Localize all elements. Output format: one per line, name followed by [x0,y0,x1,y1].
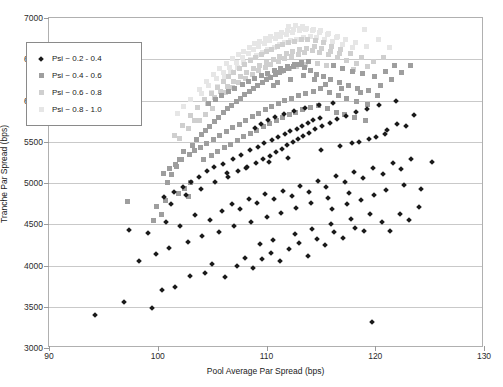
data-point [297,62,302,67]
data-point [238,74,243,79]
data-point [210,106,215,111]
data-point [180,123,185,128]
gridline [49,142,482,143]
data-point [319,123,325,129]
data-point [188,113,193,118]
data-point [373,134,379,140]
data-point [204,169,210,175]
data-point [241,49,246,54]
data-point [290,30,295,35]
data-point [291,64,296,69]
data-point [177,136,182,141]
data-point [329,206,335,212]
data-point [221,70,226,75]
legend-item[interactable]: Psi ~ 0.6 - 0.8 [35,84,135,101]
data-point [273,71,278,76]
data-point [263,191,269,197]
data-point [286,24,291,29]
data-point [237,66,242,71]
data-point [387,45,392,50]
data-point [301,35,306,40]
data-point [260,50,265,55]
data-point [216,229,222,235]
data-point [265,117,271,123]
data-point [298,26,303,31]
data-point [255,83,260,88]
data-point [302,65,307,70]
data-point [226,74,231,79]
data-point [269,104,274,109]
y-tick [44,18,49,19]
data-point [314,35,319,40]
data-point [277,259,283,265]
data-point [215,149,220,154]
data-point [297,183,303,189]
square-marker-icon [35,73,47,78]
data-point [284,143,290,149]
data-point [303,91,308,96]
data-point [271,196,277,202]
data-point [227,65,232,70]
x-tick-label: 120 [368,351,382,361]
data-point [257,241,263,247]
data-point [247,89,252,94]
data-point [362,27,367,32]
data-point [286,40,291,45]
data-point [145,230,151,236]
data-point [300,107,305,112]
data-point [303,62,308,67]
data-point [351,169,357,175]
data-point [285,64,290,69]
legend-item[interactable]: Psi ~ 0.8 - 1.0 [35,101,135,118]
data-point [172,284,178,290]
data-point [348,51,353,56]
data-point [254,53,259,58]
data-point [299,37,304,42]
data-point [338,47,343,52]
data-point [318,86,323,91]
data-point [256,111,261,116]
data-point [244,70,249,75]
data-point [334,117,340,123]
data-point [281,68,286,73]
data-point [412,113,418,119]
data-point [203,112,208,117]
data-point [206,101,211,106]
data-point [258,121,264,127]
legend-item[interactable]: Psi ~ 0.2 - 0.4 [35,50,135,67]
legend-item[interactable]: Psi ~ 0.4 - 0.6 [35,67,135,84]
data-point [308,105,313,110]
data-point [268,62,273,67]
data-point [318,148,324,154]
data-point [175,111,180,116]
legend-item-label: Psi ~ 0.8 - 1.0 [52,105,102,114]
x-tick-label: 90 [44,351,53,361]
data-point [259,73,264,78]
data-point [310,28,315,33]
data-point [269,47,274,52]
data-point [365,64,370,69]
data-point [313,127,319,133]
data-point [352,115,357,120]
x-tick-label: 110 [260,351,274,361]
data-point [192,212,198,218]
data-point [273,36,278,41]
data-point [272,114,278,120]
data-point [190,143,195,148]
data-point [280,115,285,120]
data-point [246,196,252,202]
data-point [247,45,252,50]
data-point [382,131,388,137]
data-point [358,90,363,95]
data-point [221,79,226,84]
gridline [49,266,482,267]
data-point [242,62,247,67]
data-point [282,40,287,45]
data-point [362,228,368,234]
y-tick [44,266,49,267]
data-point [306,130,312,136]
data-point [188,273,194,279]
data-point [237,122,242,127]
data-point [264,60,269,65]
data-point [256,44,261,49]
